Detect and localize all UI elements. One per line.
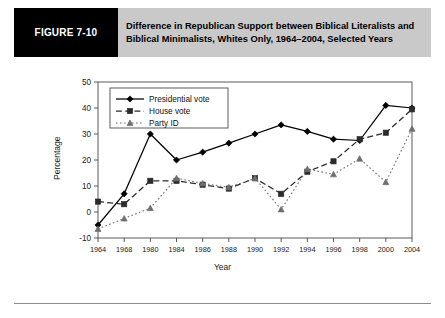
x-axis-tick-label: 1986 xyxy=(195,245,211,254)
x-axis-tick-label: 1980 xyxy=(142,245,158,254)
data-point xyxy=(122,202,127,207)
figure-container: FIGURE 7-10 Difference in Republican Sup… xyxy=(0,0,445,318)
legend-label: House vote xyxy=(149,107,191,116)
footer-divider xyxy=(14,303,431,304)
data-point xyxy=(95,199,100,204)
data-point xyxy=(279,191,284,196)
figure-number-badge: FIGURE 7-10 xyxy=(14,8,118,57)
y-axis-tick-label: 50 xyxy=(82,78,92,87)
legend-label: Party ID xyxy=(149,119,179,128)
data-point xyxy=(357,137,362,142)
data-point xyxy=(383,130,388,135)
figure-number-label: FIGURE 7-10 xyxy=(35,27,98,38)
line-chart: -100102030405019641968198019841986198819… xyxy=(0,62,445,280)
y-axis-tick-label: 20 xyxy=(82,156,92,165)
y-axis-tick-label: 0 xyxy=(86,208,91,217)
x-axis-tick-label: 1996 xyxy=(325,245,341,254)
figure-header: FIGURE 7-10 Difference in Republican Sup… xyxy=(14,8,431,57)
data-point xyxy=(409,107,414,112)
legend-marker xyxy=(127,108,132,113)
x-axis-tick-label: 1964 xyxy=(90,245,106,254)
data-point xyxy=(331,159,336,164)
x-axis-tick-label: 1984 xyxy=(168,245,184,254)
y-axis-tick-label: -10 xyxy=(79,234,91,243)
y-axis-tick-label: 30 xyxy=(82,130,92,139)
figure-title-banner: Difference in Republican Support between… xyxy=(118,8,431,57)
x-axis-tick-label: 1994 xyxy=(299,245,315,254)
x-axis-tick-label: 1998 xyxy=(352,245,368,254)
y-axis-tick-label: 40 xyxy=(82,104,92,113)
x-axis-tick-label: 1968 xyxy=(116,245,132,254)
figure-title: Difference in Republican Support between… xyxy=(126,20,425,45)
x-axis-tick-label: 1990 xyxy=(247,245,263,254)
x-axis-tick-label: 2004 xyxy=(404,245,420,254)
data-point xyxy=(148,178,153,183)
legend-label: Presidential vote xyxy=(149,95,210,104)
x-axis-tick-label: 2000 xyxy=(378,245,394,254)
chart-plot-area: Percentage Year -10010203040501964196819… xyxy=(0,62,445,280)
x-axis-tick-label: 1988 xyxy=(221,245,237,254)
y-axis-tick-label: 10 xyxy=(82,182,92,191)
x-axis-tick-label: 1992 xyxy=(273,245,289,254)
